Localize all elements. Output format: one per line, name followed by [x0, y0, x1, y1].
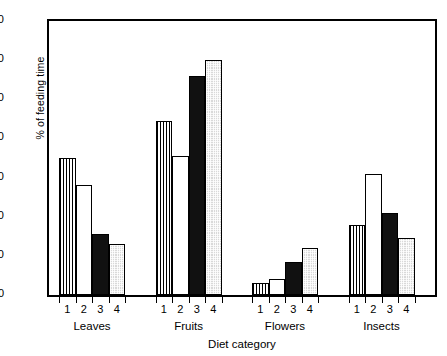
bar-insects-1 [349, 225, 366, 295]
bar-leaves-1 [59, 158, 76, 295]
bar-leaves-3 [92, 234, 109, 295]
bar-flowers-1 [252, 283, 269, 295]
y-axis-title: % of feeding time [34, 28, 46, 168]
bar-fruits-4 [205, 60, 222, 295]
bar-flowers-2 [269, 279, 286, 295]
bar-insects-3 [382, 213, 399, 295]
bars-container [49, 21, 435, 295]
y-tick-label: 60 [0, 53, 4, 64]
x-group-label-fruits: Fruits [134, 320, 244, 332]
y-tick-label: 10 [0, 249, 4, 260]
bar-fruits-3 [189, 76, 206, 295]
x-group-label-flowers: Flowers [230, 320, 340, 332]
x-sublabel: 4 [105, 303, 129, 315]
y-tick-label: 0 [0, 288, 4, 299]
y-tick-label: 70 [0, 14, 4, 25]
x-group-label-leaves: Leaves [37, 320, 147, 332]
bar-leaves-4 [109, 244, 126, 295]
bar-fruits-2 [172, 156, 189, 295]
x-axis-title: Diet category [47, 338, 437, 350]
bar-flowers-3 [285, 262, 302, 295]
bar-flowers-4 [302, 248, 319, 295]
x-sublabel: 4 [298, 303, 322, 315]
bar-leaves-2 [76, 185, 93, 295]
y-tick-label: 50 [0, 92, 4, 103]
x-group-label-insects: Insects [327, 320, 437, 332]
y-tick-label: 20 [0, 210, 4, 221]
bar-chart: % of feeding time 010203040506070 123412… [0, 0, 447, 356]
bar-insects-2 [365, 174, 382, 295]
y-tick-label: 30 [0, 171, 4, 182]
bar-fruits-1 [156, 121, 173, 295]
x-axis-sublabels: 1234123412341234 [47, 303, 437, 319]
y-tick-label: 40 [0, 131, 4, 142]
x-sublabel: 4 [394, 303, 418, 315]
x-axis-group-labels: LeavesFruitsFlowersInsects [47, 320, 437, 336]
bar-insects-4 [398, 238, 415, 295]
x-sublabel: 4 [201, 303, 225, 315]
